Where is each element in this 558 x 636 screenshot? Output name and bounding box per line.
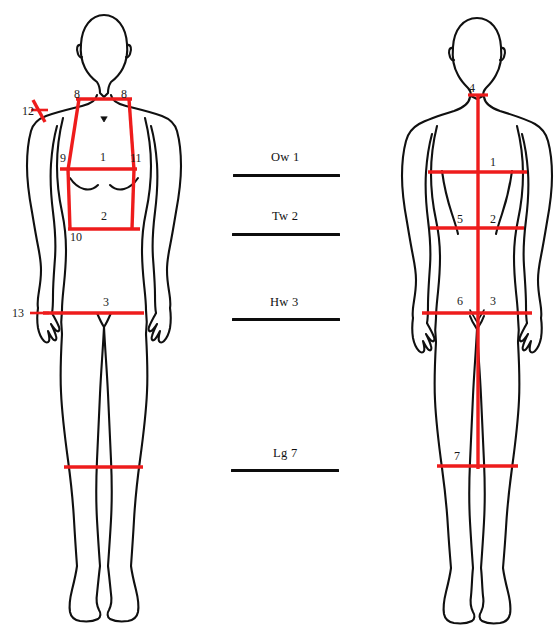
back-hip-right	[518, 318, 519, 342]
front-line-11-to-waist	[132, 169, 134, 229]
back-right-leg-outer	[503, 342, 519, 568]
back-label-1: 1	[490, 156, 496, 168]
back-label-5: 5	[457, 213, 463, 225]
back-label-4: 4	[469, 82, 475, 94]
front-torso-left-edge	[57, 118, 66, 310]
back-label-7: 7	[454, 450, 460, 462]
front-measurement-lines	[30, 99, 144, 467]
legend-rule-tw2	[232, 233, 340, 236]
front-right-foot	[108, 566, 139, 621]
body-measurement-diagram: 8 8 12 9 1 11 2 10 3 13 4 1 5 2 6 3 7 Ow…	[0, 0, 558, 636]
legend-rule-lg7	[231, 469, 339, 472]
front-left-arm-inner	[51, 126, 57, 295]
front-left-wrist-inner	[52, 295, 53, 313]
back-torso-left-edge	[431, 126, 440, 318]
front-sternal-notch-mark	[101, 117, 107, 122]
front-right-hand	[149, 308, 171, 343]
back-head-outline	[453, 18, 502, 99]
front-left-leg-outer	[61, 334, 77, 566]
legend-rule-ow1	[233, 174, 340, 177]
front-right-arm-inner	[151, 126, 157, 295]
legend-label-hw3: Hw 3	[270, 295, 299, 310]
front-label-3: 3	[103, 296, 109, 308]
front-label-9: 9	[60, 152, 66, 164]
back-label-2: 2	[490, 213, 496, 225]
front-label-8-left: 8	[74, 88, 80, 100]
front-right-wrist-inner	[155, 295, 156, 313]
front-label-13: 13	[12, 307, 24, 319]
front-left-leg-inner	[96, 327, 104, 566]
front-bust-left-curve	[70, 178, 98, 189]
front-torso-right-edge	[142, 118, 151, 310]
front-label-12: 12	[22, 105, 34, 117]
back-left-scapula-line	[442, 171, 458, 234]
back-label-6: 6	[457, 295, 463, 307]
back-right-scapula-line	[496, 171, 512, 234]
back-left-leg-inner	[469, 329, 477, 568]
front-right-leg-outer	[131, 334, 147, 566]
legend-label-ow1: Ow 1	[271, 150, 300, 165]
front-label-11: 11	[130, 152, 142, 164]
back-left-leg-outer	[435, 342, 451, 568]
legend-label-tw2: Tw 2	[272, 209, 298, 224]
back-right-hand	[520, 318, 542, 353]
back-right-foot	[480, 568, 511, 623]
back-left-hand	[412, 318, 434, 353]
back-left-foot	[444, 568, 475, 623]
front-head-outline	[81, 15, 128, 97]
front-right-leg-inner	[104, 327, 112, 566]
back-label-3: 3	[490, 295, 496, 307]
front-left-foot	[70, 566, 101, 621]
back-hip-left	[435, 318, 436, 342]
front-label-8-right: 8	[121, 88, 127, 100]
legend-rule-hw3	[232, 318, 340, 321]
front-crotch-notch	[97, 313, 111, 327]
front-hip-right	[146, 310, 147, 334]
back-torso-right-edge	[514, 126, 523, 318]
front-label-10: 10	[70, 231, 82, 243]
legend-label-lg7: Lg 7	[273, 446, 297, 461]
front-view-body-figure	[27, 15, 181, 621]
front-label-1: 1	[100, 151, 106, 163]
front-line-9-to-10	[68, 169, 70, 229]
front-label-2: 2	[101, 210, 107, 222]
